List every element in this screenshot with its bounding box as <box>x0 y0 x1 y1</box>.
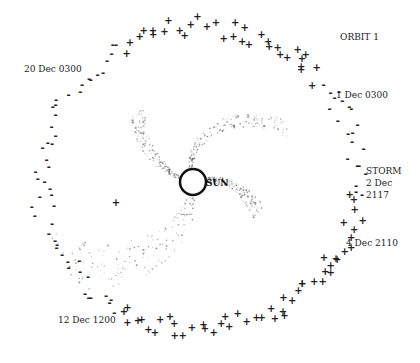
stream-dot <box>220 126 221 127</box>
solar-wind-streams <box>52 110 288 290</box>
stream-dot <box>181 234 183 236</box>
stream-dot <box>129 122 130 123</box>
positive-polarity-marker: + <box>137 314 145 325</box>
stream-dot <box>89 252 91 254</box>
stream-dot <box>263 128 265 130</box>
stream-dot <box>243 189 245 191</box>
negative-polarity-marker: - <box>104 290 108 301</box>
stream-dot <box>151 236 153 238</box>
stream-dot <box>174 248 175 249</box>
stream-dot <box>149 144 151 146</box>
positive-polarity-marker: + <box>318 276 326 287</box>
negative-polarity-marker: - <box>114 39 118 50</box>
negative-polarity-marker: - <box>34 166 38 177</box>
stream-dot <box>103 265 105 267</box>
stream-dot <box>274 122 275 123</box>
stream-dot <box>192 208 193 209</box>
stream-dot <box>229 124 230 125</box>
stream-dot <box>143 126 144 127</box>
stream-dot <box>136 138 138 140</box>
stream-dot <box>164 231 165 232</box>
stream-dot <box>231 124 232 125</box>
stream-dot <box>141 113 142 114</box>
stream-dot <box>154 251 155 252</box>
stream-dot <box>210 136 211 137</box>
stream-dot <box>224 124 226 126</box>
stream-dot <box>174 174 176 176</box>
positive-polarity-marker: + <box>210 327 218 338</box>
stream-dot <box>192 146 194 148</box>
stream-dot <box>127 248 128 249</box>
stream-dot <box>231 180 233 182</box>
stream-dot <box>72 253 73 254</box>
stream-dot <box>155 247 157 249</box>
stream-dot <box>280 122 282 124</box>
negative-polarity-marker: - <box>360 189 364 200</box>
stream-dot <box>186 214 187 215</box>
positive-polarity-marker: + <box>280 310 288 321</box>
stream-dot <box>146 155 147 156</box>
stream-dot <box>102 255 103 256</box>
stream-dot <box>252 126 253 127</box>
stream-dot <box>140 110 141 111</box>
stream-dot <box>246 126 247 127</box>
negative-polarity-marker: - <box>53 235 57 246</box>
positive-polarity-marker: + <box>231 17 239 28</box>
stream-dot <box>132 116 133 117</box>
stream-dot <box>190 214 191 215</box>
stream-dot <box>229 181 230 182</box>
stream-dot <box>166 245 168 247</box>
stream-dot <box>178 174 180 176</box>
stream-dot <box>189 223 190 224</box>
stream-dot <box>261 120 263 122</box>
stream-dot <box>135 127 136 128</box>
stream-dot <box>223 119 224 120</box>
stream-dot <box>149 150 151 152</box>
date-label-4-dec: 4 Dec 2110 <box>346 238 398 248</box>
stream-dot <box>193 199 195 201</box>
stream-dot <box>142 143 144 145</box>
stream-dot <box>147 235 149 237</box>
stream-dot <box>178 234 179 235</box>
negative-polarity-marker: - <box>96 69 100 80</box>
stream-dot <box>232 188 233 189</box>
stream-dot <box>142 110 144 112</box>
stream-dot <box>165 248 166 249</box>
stream-dot <box>262 118 263 119</box>
positive-polarity-marker: + <box>156 314 164 325</box>
positive-polarity-marker: + <box>203 21 211 32</box>
stream-dot <box>176 214 177 215</box>
positive-polarity-marker: + <box>308 80 316 91</box>
stream-dot <box>166 239 168 241</box>
stream-dot <box>259 115 260 116</box>
stream-dot <box>236 188 237 189</box>
stream-dot <box>121 277 122 278</box>
stream-dot <box>74 259 76 261</box>
orbit-label: ORBIT 1 <box>340 32 379 42</box>
stream-dot <box>165 171 166 172</box>
stream-dot <box>99 250 100 251</box>
stream-dot <box>253 217 254 218</box>
stream-dot <box>262 127 263 128</box>
stream-dot <box>239 193 241 195</box>
stream-dot <box>173 220 174 221</box>
stream-dot <box>182 206 183 207</box>
stream-dot <box>140 133 141 134</box>
stream-dot <box>70 274 72 276</box>
stream-dot <box>229 184 230 185</box>
stream-dot <box>191 219 193 221</box>
negative-polarity-marker: - <box>42 176 46 187</box>
negative-polarity-marker: - <box>101 67 105 78</box>
stream-dot <box>247 205 248 206</box>
stream-dot <box>252 203 253 204</box>
stream-dot <box>161 164 162 165</box>
date-label-1-dec: 1 Dec 0300 <box>336 90 388 100</box>
stream-dot <box>234 183 235 184</box>
stream-dot <box>91 267 93 269</box>
stream-dot <box>189 157 191 159</box>
sun-icon <box>180 169 206 195</box>
negative-polarity-marker: - <box>60 249 64 260</box>
stream-dot <box>189 161 191 163</box>
stream-dot <box>282 128 284 130</box>
stream-dot <box>190 150 192 152</box>
